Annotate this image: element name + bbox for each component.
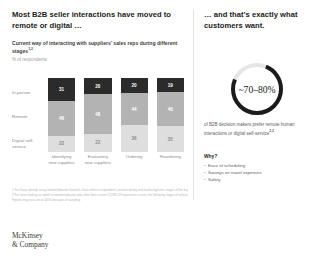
bar-segment-value: 46 — [168, 107, 173, 112]
bar-segment-value: 44 — [132, 107, 137, 112]
footnote-3: Figures may not sum to 100% because of r… — [12, 198, 188, 203]
slide-canvas: Most B2B seller interactions have moved … — [0, 0, 320, 264]
row-label-digital-self-service: Digital self-service — [12, 138, 45, 149]
bar-segment-digital[interactable]: 36 — [121, 125, 148, 152]
bar-segment-value: 48 — [95, 112, 100, 117]
vertical-divider — [193, 10, 194, 200]
donut-caption-superscript: 2,3 — [269, 129, 274, 133]
right-headline: … and that’s exactly what customers want… — [204, 10, 310, 32]
logo-line-2: & Company — [12, 241, 48, 250]
category-label: Identifying new suppliers — [48, 154, 75, 165]
donut-value: ~70–80% — [228, 60, 286, 118]
bar-column[interactable]: 204822 — [84, 78, 111, 152]
bar-segment-digital[interactable]: 22 — [48, 136, 75, 152]
bar-segment-digital[interactable]: 35 — [157, 126, 184, 152]
why-list-item: Ease of scheduling — [204, 162, 308, 169]
bar-segment-inperson[interactable]: 31 — [48, 78, 75, 101]
chart-plot-area: 314622204822204436194635 — [48, 78, 184, 152]
mckinsey-logo: McKinsey & Company — [12, 232, 48, 250]
chart-subtitle-text: Current way of interacting with supplier… — [12, 40, 177, 54]
why-list-item: Safety — [204, 176, 308, 183]
chart-subtitle: Current way of interacting with supplier… — [12, 40, 184, 55]
chart-units-label: % of respondents — [12, 57, 184, 63]
left-headline: Most B2B seller interactions have moved … — [12, 10, 184, 32]
bar-segment-digital[interactable]: 22 — [84, 134, 111, 152]
bar-segment-value: 20 — [132, 83, 137, 88]
footnotes: 1 For those already using remote/inbound… — [12, 188, 188, 203]
footnote-2: 2 For those looking to switch to remote/… — [12, 193, 188, 198]
left-panel: Most B2B seller interactions have moved … — [12, 10, 184, 63]
why-title: Why? — [204, 154, 308, 159]
bar-segment-value: 20 — [95, 84, 100, 89]
category-label: Ordering — [121, 154, 148, 165]
donut-caption-text: of B2B decision makers prefer remote hum… — [204, 122, 295, 135]
bar-segment-value: 46 — [59, 116, 64, 121]
bar-segment-remote[interactable]: 48 — [84, 94, 111, 133]
bar-segment-inperson[interactable]: 20 — [84, 78, 111, 94]
bar-segment-value: 22 — [95, 140, 100, 145]
bar-segment-value: 35 — [168, 137, 173, 142]
bar-segment-inperson[interactable]: 20 — [121, 78, 148, 93]
bar-segment-inperson[interactable]: 19 — [157, 78, 184, 92]
donut-ring: ~70–80% — [228, 60, 286, 118]
category-label: Evaluating new suppliers — [84, 154, 111, 165]
bar-segment-remote[interactable]: 46 — [48, 101, 75, 135]
chart-category-labels: Identifying new suppliersEvaluating new … — [48, 154, 184, 165]
bar-segment-value: 22 — [59, 141, 64, 146]
row-label-remote: Remote — [12, 114, 45, 120]
bar-column[interactable]: 204436 — [121, 78, 148, 152]
why-list: Ease of schedulingSavings on travel expe… — [204, 162, 308, 183]
why-section: Why? Ease of schedulingSavings on travel… — [204, 154, 308, 183]
bar-segment-value: 36 — [132, 136, 137, 141]
row-label-in-person: In-person — [12, 90, 45, 96]
bar-column[interactable]: 314622 — [48, 78, 75, 152]
stacked-bar-chart: In-person Remote Digital self-service 31… — [12, 78, 184, 170]
bar-segment-value: 19 — [168, 83, 173, 88]
right-panel: … and that’s exactly what customers want… — [204, 10, 310, 32]
chart-subtitle-superscript: 1,2 — [28, 47, 33, 51]
bar-segment-remote[interactable]: 46 — [157, 92, 184, 126]
chart-row-labels: In-person Remote Digital self-service — [12, 78, 45, 152]
why-list-item: Savings on travel expenses — [204, 169, 308, 176]
bar-segment-value: 31 — [59, 87, 64, 92]
category-label: Reordering — [157, 154, 184, 165]
donut-stat: ~70–80% — [204, 58, 310, 120]
donut-caption: of B2B decision makers prefer remote hum… — [204, 122, 308, 137]
bar-column[interactable]: 194635 — [157, 78, 184, 152]
bar-segment-remote[interactable]: 44 — [121, 93, 148, 126]
